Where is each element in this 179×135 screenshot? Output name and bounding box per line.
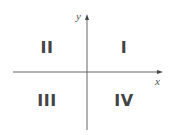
quadrant-III-label: III (37, 91, 56, 110)
x-axis-arrow-icon (157, 70, 163, 74)
coordinate-axes (0, 0, 179, 135)
x-axis-label: x (155, 75, 160, 87)
quadrant-IV-label: IV (114, 91, 133, 110)
quadrant-I-label: I (121, 38, 127, 57)
y-axis-arrow-icon (85, 14, 89, 20)
quadrant-II-label: II (41, 38, 54, 57)
y-axis-label: y (76, 10, 81, 22)
